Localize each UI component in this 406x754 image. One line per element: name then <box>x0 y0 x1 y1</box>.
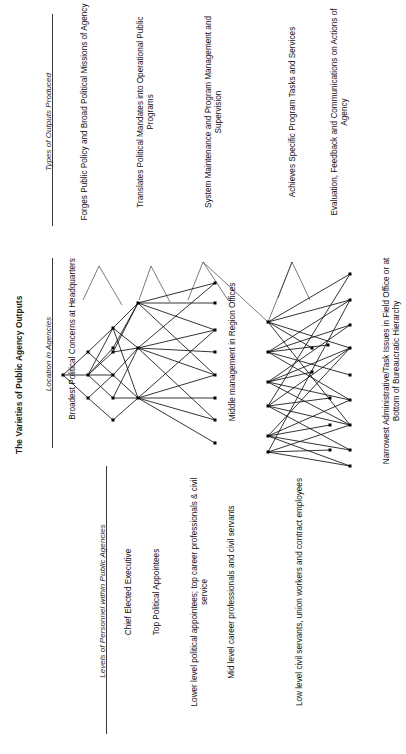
node <box>327 344 330 347</box>
node <box>137 302 140 305</box>
node <box>349 465 352 468</box>
node <box>214 442 217 445</box>
node <box>349 299 352 302</box>
node <box>112 419 115 422</box>
node <box>349 273 352 276</box>
node <box>112 351 115 354</box>
node <box>214 351 217 354</box>
figure-canvas: The Varieties of Public Agency Outputs L… <box>0 0 406 754</box>
node <box>112 397 115 400</box>
node <box>214 374 217 377</box>
node <box>349 347 352 350</box>
node <box>311 347 314 350</box>
node <box>62 374 65 377</box>
node <box>267 321 270 324</box>
network-diagram <box>0 0 406 754</box>
node <box>214 282 217 285</box>
node <box>137 347 140 350</box>
node <box>311 371 314 374</box>
node <box>349 324 352 327</box>
node <box>349 399 352 402</box>
node <box>112 327 115 330</box>
node <box>87 351 90 354</box>
node <box>267 381 270 384</box>
node <box>349 424 352 427</box>
node <box>214 329 217 332</box>
node <box>349 449 352 452</box>
node <box>267 351 270 354</box>
node <box>112 374 115 377</box>
node <box>87 397 90 400</box>
node <box>267 405 270 408</box>
band-chevrons <box>83 262 310 322</box>
node <box>329 449 332 452</box>
graph-edges <box>63 274 350 466</box>
node <box>112 347 115 350</box>
node <box>329 424 332 427</box>
node <box>214 397 217 400</box>
node <box>214 302 217 305</box>
node <box>349 374 352 377</box>
node <box>87 374 90 377</box>
node <box>214 419 217 422</box>
node <box>137 397 140 400</box>
node <box>267 451 270 454</box>
node <box>267 435 270 438</box>
node <box>329 397 332 400</box>
